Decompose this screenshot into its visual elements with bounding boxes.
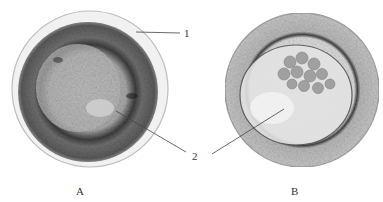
cell-a-center <box>36 44 120 132</box>
callout-2-label: 2 <box>192 151 198 162</box>
cell-b-cavity <box>240 45 352 145</box>
cell-b <box>225 13 379 167</box>
micrograph-illustration <box>0 0 383 202</box>
micrograph-figure: 1 2 A B <box>0 0 383 202</box>
callout-1-label: 1 <box>184 28 190 39</box>
panel-a-label: A <box>76 186 84 197</box>
cell-a <box>12 11 168 167</box>
panel-b-label: B <box>291 186 298 197</box>
